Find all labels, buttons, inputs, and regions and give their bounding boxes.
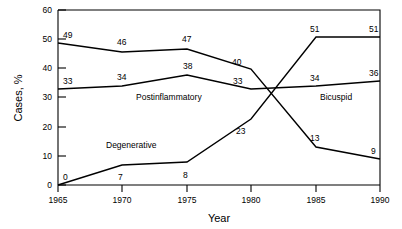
point-label-bicuspid-1990: 36 — [369, 68, 379, 78]
point-label-postinflammatory-1985: 13 — [310, 133, 320, 143]
point-label-bicuspid-1965: 33 — [63, 76, 73, 86]
x-tick-label-1965: 1965 — [49, 195, 68, 205]
x-tick-label-1975: 1975 — [178, 195, 197, 205]
series-label-degenerative: Degenerative — [106, 140, 157, 150]
y-tick-label-30: 30 — [43, 92, 53, 102]
point-label-bicuspid-1970: 34 — [117, 72, 127, 82]
point-label-degenerative-1975: 8 — [183, 170, 188, 180]
x-tick-label-1990: 1990 — [371, 195, 390, 205]
x-tick-label-1980: 1980 — [242, 195, 261, 205]
point-label-degenerative-1990: 51 — [369, 24, 379, 34]
y-tick-label-20: 20 — [43, 122, 53, 132]
point-label-degenerative-1980: 23 — [236, 126, 246, 136]
point-label-degenerative-1965: 0 — [63, 172, 68, 182]
series-line-bicuspid — [58, 75, 380, 89]
point-label-postinflammatory-1970: 46 — [117, 37, 127, 47]
point-label-bicuspid-1980: 33 — [233, 76, 243, 86]
point-label-bicuspid-1985: 34 — [310, 73, 320, 83]
line-chart-figure: 60 50 40 30 20 10 0 1965 1970 1975 1980 … — [0, 0, 402, 229]
point-label-postinflammatory-1980: 40 — [232, 57, 242, 67]
y-tick-label-0: 0 — [47, 180, 52, 190]
y-tick-label-10: 10 — [43, 151, 53, 161]
y-axis-title: Cases, % — [12, 74, 24, 121]
chart-svg: 60 50 40 30 20 10 0 1965 1970 1975 1980 … — [0, 0, 402, 229]
series-label-bicuspid: Bicuspid — [320, 92, 352, 102]
point-label-bicuspid-1975: 38 — [183, 61, 193, 71]
y-tick-label-50: 50 — [43, 34, 53, 44]
x-axis-title: Year — [208, 212, 231, 224]
x-tick-label-1985: 1985 — [307, 195, 326, 205]
y-tick-label-60: 60 — [43, 5, 53, 15]
y-tick-label-40: 40 — [43, 63, 53, 73]
x-tick-label-1970: 1970 — [113, 195, 132, 205]
point-label-postinflammatory-1965: 49 — [63, 30, 73, 40]
x-tick-marks — [58, 185, 380, 192]
point-label-postinflammatory-1990: 9 — [371, 146, 376, 156]
point-label-postinflammatory-1975: 47 — [182, 34, 192, 44]
series-label-postinflammatory: Postinflammatory — [136, 92, 202, 102]
point-label-degenerative-1970: 7 — [118, 172, 123, 182]
point-label-degenerative-1985: 51 — [310, 24, 320, 34]
